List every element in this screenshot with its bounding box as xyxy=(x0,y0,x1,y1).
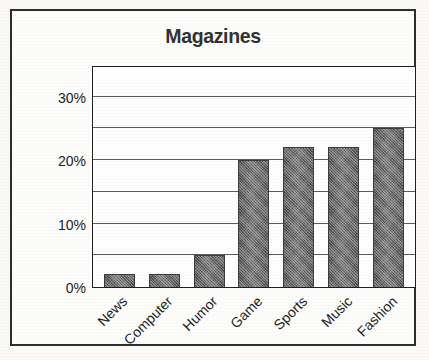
bar xyxy=(328,147,359,287)
bar xyxy=(373,128,404,287)
x-axis-tick-slot: Music xyxy=(329,289,360,359)
plot-area xyxy=(92,66,416,288)
y-axis-tick-label: 10% xyxy=(26,217,86,233)
y-axis-tick-labels: 0%10%20%30% xyxy=(20,66,86,288)
bar xyxy=(104,274,135,287)
x-axis-tick-label: Humor xyxy=(179,293,220,334)
x-axis-tick-label: Sports xyxy=(271,293,311,333)
x-axis-tick-slot: Humor xyxy=(193,289,224,359)
y-axis-tick-label: 20% xyxy=(26,153,86,169)
bar xyxy=(194,255,225,287)
x-axis-tick-slot: News xyxy=(103,289,134,359)
y-axis-tick-label: 30% xyxy=(26,90,86,106)
x-axis-tick-slot: Game xyxy=(238,289,269,359)
figure-frame: Magazines 0%10%20%30% NewsComputerHumorG… xyxy=(10,9,416,346)
x-axis-tick-label: News xyxy=(94,293,130,329)
bar xyxy=(283,147,314,287)
x-axis-tick-slot: Computer xyxy=(148,289,179,359)
x-axis-tick-label: Music xyxy=(318,293,355,330)
x-axis-tick-slot: Sports xyxy=(284,289,315,359)
x-axis-tick-label: Fashion xyxy=(354,293,401,340)
x-axis-tick-slot: Fashion xyxy=(374,289,405,359)
y-axis-tick-label: 0% xyxy=(26,280,86,296)
bar-series xyxy=(93,67,415,287)
x-axis-tick-labels: NewsComputerHumorGameSportsMusicFashion xyxy=(92,289,416,359)
x-axis-tick-label: Game xyxy=(227,293,265,331)
bar xyxy=(238,160,269,287)
chart-title: Magazines xyxy=(26,24,400,48)
bar xyxy=(149,274,180,287)
